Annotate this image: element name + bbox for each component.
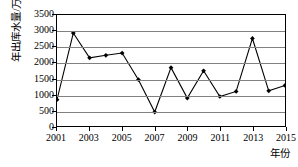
x-axis-tick-mark [253, 127, 254, 131]
data-point-marker [57, 97, 59, 102]
gridline [57, 80, 285, 81]
data-point-marker [266, 88, 271, 93]
x-axis-title: 年份 [270, 148, 290, 160]
gridline [57, 63, 285, 64]
gridline [57, 47, 285, 48]
y-axis-title: 年出库水量/万 m3 [6, 0, 20, 81]
x-axis-tick-label: 2005 [107, 132, 137, 144]
y-axis-tick-label: 2500 [34, 41, 54, 51]
x-axis-tick-mark [286, 127, 287, 131]
data-point-marker [169, 65, 174, 70]
y-axis-title-text: 年出库水量/万 m [11, 0, 22, 62]
x-axis-tick-mark [187, 127, 188, 131]
y-axis-tick-label: 3000 [34, 25, 54, 35]
x-axis-tick-mark [122, 127, 123, 131]
series-polyline [57, 33, 285, 112]
y-axis-tick-label: 2000 [34, 57, 54, 67]
data-point-marker [234, 89, 239, 94]
y-axis-tick-label: 1000 [34, 90, 54, 100]
data-point-marker [250, 36, 255, 41]
x-axis-tick-label: 2007 [140, 132, 170, 144]
x-axis-tick-mark [56, 127, 57, 131]
x-axis-tick-labels: 20012003200520072009201120132015 [0, 132, 298, 146]
gridline [57, 112, 285, 113]
x-axis-tick-label: 2009 [172, 132, 202, 144]
plot-area [56, 14, 286, 127]
x-axis-tick-label: 2003 [74, 132, 104, 144]
gridline [57, 31, 285, 32]
data-point-marker [103, 53, 108, 58]
data-point-marker [120, 51, 125, 56]
y-axis-tick-label: 1500 [34, 74, 54, 84]
x-axis-tick-mark [89, 127, 90, 131]
y-axis-tick-label: 3500 [34, 9, 54, 19]
data-point-marker [283, 83, 285, 88]
gridline [57, 96, 285, 97]
x-axis-tick-label: 2013 [238, 132, 268, 144]
x-axis-tick-mark [155, 127, 156, 131]
x-axis-tick-label: 2001 [41, 132, 71, 144]
x-axis-tick-label: 2015 [271, 132, 298, 144]
x-axis-tick-mark [220, 127, 221, 131]
x-axis-tick-label: 2011 [205, 132, 235, 144]
chart-figure: 年出库水量/万 m3 0500100015002000250030003500 … [0, 0, 298, 167]
